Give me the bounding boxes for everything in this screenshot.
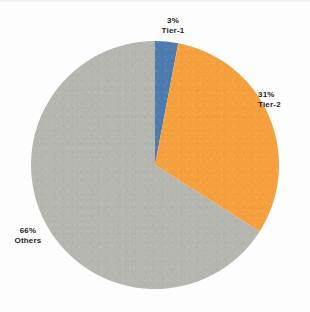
- pie-label-tier-1-name: Tier-1: [150, 26, 196, 36]
- pie-label-others: 66% Others: [4, 226, 52, 246]
- pie-label-others-percent: 66%: [4, 226, 52, 236]
- pie-label-tier-1-percent: 3%: [150, 16, 196, 26]
- pie-graphic: [31, 41, 279, 289]
- pie-label-tier-1: 3% Tier-1: [150, 16, 196, 36]
- pie-label-tier-2-name: Tier-2: [258, 100, 304, 110]
- pie-chart-page: 3% Tier-1 31% Tier-2 66% Others: [0, 0, 310, 312]
- pie-label-tier-2: 31% Tier-2: [258, 90, 304, 110]
- pie-slice-group: [31, 41, 279, 289]
- pie-chart: 3% Tier-1 31% Tier-2 66% Others: [0, 0, 310, 312]
- pie-svg: [31, 41, 279, 289]
- pie-label-others-name: Others: [4, 236, 52, 246]
- pie-label-tier-2-percent: 31%: [258, 90, 304, 100]
